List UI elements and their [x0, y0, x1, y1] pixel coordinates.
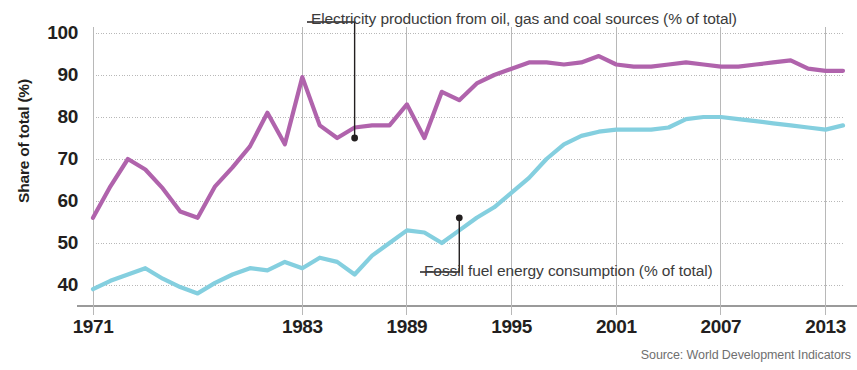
chart-figure: Share of total (%) 100908070605040 19711… — [0, 0, 857, 370]
series-line-1 — [93, 56, 843, 218]
source-caption: Source: World Development Indicators — [641, 348, 851, 362]
series2-callout-anchor-dot — [456, 214, 463, 221]
chart-plot-area — [0, 0, 857, 370]
series1-annotation-label: Electricity production from oil, gas and… — [311, 10, 737, 28]
series1-callout-leader — [307, 22, 355, 138]
series2-annotation-label: Fossil fuel energy consumption (% of tot… — [424, 262, 713, 280]
series1-callout-anchor-dot — [351, 135, 358, 142]
